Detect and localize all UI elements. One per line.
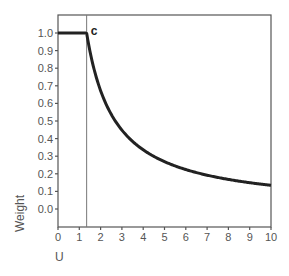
y-tick-label: 0.9 bbox=[38, 45, 53, 57]
x-tick-label: 4 bbox=[140, 231, 146, 243]
x-tick-label: 9 bbox=[247, 231, 253, 243]
y-tick-label: 0.2 bbox=[38, 168, 53, 180]
y-tick-label: 0.6 bbox=[38, 97, 53, 109]
y-axis-label: Weight bbox=[13, 194, 27, 232]
x-tick-label: 7 bbox=[204, 231, 210, 243]
y-axis-ticks: 1.00.90.80.70.60.50.40.30.20.10.0 bbox=[38, 27, 58, 215]
x-axis-label: U bbox=[55, 250, 64, 264]
y-tick-label: 0.8 bbox=[38, 62, 53, 74]
x-axis-ticks: 012345678910 bbox=[55, 227, 277, 243]
x-tick-label: 1 bbox=[76, 231, 82, 243]
x-tick-label: 8 bbox=[225, 231, 231, 243]
y-tick-label: 0.4 bbox=[38, 133, 53, 145]
x-tick-label: 10 bbox=[265, 231, 277, 243]
y-tick-label: 0.3 bbox=[38, 150, 53, 162]
y-tick-label: 0.5 bbox=[38, 115, 53, 127]
x-tick-label: 0 bbox=[55, 231, 61, 243]
y-tick-label: 0.7 bbox=[38, 80, 53, 92]
x-tick-label: 3 bbox=[119, 231, 125, 243]
weight-function-chart: 1.00.90.80.70.60.50.40.30.20.10.0 012345… bbox=[0, 0, 289, 276]
x-tick-label: 6 bbox=[183, 231, 189, 243]
y-tick-label: 1.0 bbox=[38, 27, 53, 39]
c-annotation: c bbox=[91, 24, 98, 38]
weight-curve bbox=[58, 33, 271, 185]
y-tick-label: 0.1 bbox=[38, 185, 53, 197]
x-tick-label: 2 bbox=[98, 231, 104, 243]
x-tick-label: 5 bbox=[161, 231, 167, 243]
y-tick-label: 0.0 bbox=[38, 203, 53, 215]
